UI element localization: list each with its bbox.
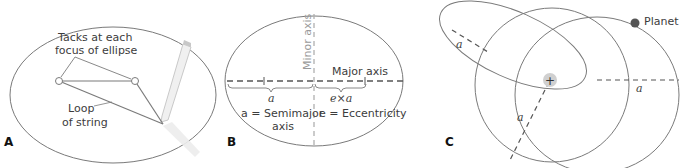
tack-left [56, 78, 63, 85]
planet-label: Planet [644, 15, 679, 28]
panel-b: Minor axis Major axis a e×a a = Semimajo… [225, 13, 407, 149]
a-label-planet: a [636, 82, 643, 95]
tacks-label-1: Tacks at each [57, 31, 132, 44]
a-label-elongated: a [456, 38, 463, 51]
a-label-circle: a [517, 111, 524, 124]
elongated-orbit [427, 0, 598, 107]
panel-label-a: A [4, 135, 14, 149]
brace-a [228, 84, 313, 92]
loop-label-1: Loop [68, 102, 94, 115]
semimajor-label-1: a = Semimajor [241, 107, 324, 120]
planet-icon [631, 19, 640, 28]
brace-ea [315, 84, 366, 92]
tacks-label-2: focus of ellipse [55, 44, 138, 57]
minor-axis-label: Minor axis [301, 13, 314, 70]
loop-label-2: of string [62, 116, 108, 129]
tack-right [132, 78, 139, 85]
major-axis-label: Major axis [332, 65, 388, 78]
sun-focus-icon: + [545, 74, 555, 88]
a-line-circle [510, 82, 549, 160]
semimajor-label-2: axis [272, 120, 294, 133]
panel-label-b: B [227, 135, 236, 149]
a-symbol: a [268, 92, 275, 105]
planet-orbit [515, 17, 679, 168]
orbit-diagram: Tacks at each focus of ellipse Loop of s… [0, 0, 684, 168]
panel-a: Tacks at each focus of ellipse Loop of s… [4, 27, 216, 163]
tack-arrows [61, 57, 131, 79]
eccentricity-label: e = Eccentricity [319, 107, 407, 120]
e-times-a-label: e×a [330, 92, 352, 105]
panel-label-c: C [445, 135, 454, 149]
panel-c: a a a + Planet C [427, 0, 679, 168]
pencil-icon [161, 40, 200, 157]
